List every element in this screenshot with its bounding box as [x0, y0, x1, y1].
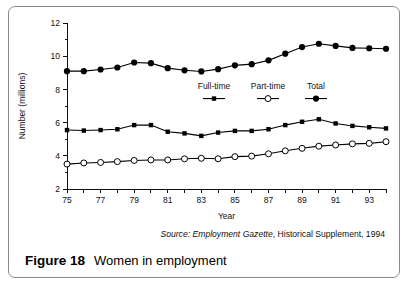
- series-marker-total: [64, 68, 70, 74]
- series-marker-total: [131, 59, 137, 65]
- series-marker-part-time: [282, 148, 288, 154]
- x-tick-label: 81: [163, 195, 173, 205]
- series-marker-full-time: [384, 126, 388, 130]
- series-marker-part-time: [165, 157, 171, 163]
- series-marker-total: [383, 46, 389, 52]
- x-tick-label: 87: [264, 195, 274, 205]
- x-tick-label: 93: [364, 195, 374, 205]
- figure-caption: Figure 18 Women in employment: [25, 253, 227, 268]
- series-line-full-time: [67, 119, 386, 136]
- series-marker-total: [198, 68, 204, 74]
- series-marker-total: [316, 41, 322, 47]
- x-tick-label: 75: [62, 195, 72, 205]
- series-marker-part-time: [198, 155, 204, 161]
- y-tick-label: 6: [55, 118, 60, 128]
- series-marker-part-time: [366, 140, 372, 146]
- series-marker-part-time: [316, 143, 322, 149]
- series-marker-part-time: [232, 154, 238, 160]
- series-marker-full-time: [182, 131, 186, 135]
- series-marker-total: [165, 65, 171, 71]
- series-marker-full-time: [82, 128, 86, 132]
- line-chart: 2468101275777981838587899193YearNumber (…: [9, 11, 399, 226]
- series-marker-part-time: [349, 141, 355, 147]
- legend-label-total: Total: [307, 81, 325, 91]
- series-marker-total: [299, 44, 305, 50]
- source-rest: , Historical Supplement, 1994: [273, 229, 385, 239]
- series-marker-full-time: [216, 130, 220, 134]
- legend-marker-total: [313, 95, 319, 101]
- x-tick-label: 79: [129, 195, 139, 205]
- series-marker-total: [265, 57, 271, 63]
- legend-marker-part-time: [265, 96, 271, 102]
- y-tick-label: 2: [55, 184, 60, 194]
- series-marker-part-time: [333, 142, 339, 148]
- series-marker-part-time: [182, 156, 188, 162]
- series-marker-part-time: [131, 157, 137, 163]
- series-marker-part-time: [215, 156, 221, 162]
- series-marker-total: [81, 68, 87, 74]
- legend-marker-full-time: [212, 96, 216, 100]
- x-tick-label: 83: [197, 195, 207, 205]
- series-marker-full-time: [266, 127, 270, 131]
- series-marker-total: [114, 64, 120, 70]
- figure-card: 2468101275777981838587899193YearNumber (…: [8, 6, 400, 278]
- legend-label-full-time: Full-time: [198, 81, 231, 91]
- series-marker-full-time: [333, 121, 337, 125]
- x-tick-label: 89: [297, 195, 307, 205]
- x-tick-label: 91: [331, 195, 341, 205]
- series-marker-full-time: [350, 124, 354, 128]
- source-prefix: Source:: [160, 229, 190, 239]
- x-tick-label: 85: [230, 195, 240, 205]
- series-marker-part-time: [114, 159, 120, 165]
- series-marker-full-time: [65, 128, 69, 132]
- series-marker-full-time: [149, 123, 153, 127]
- y-tick-label: 4: [55, 151, 60, 161]
- series-marker-total: [148, 60, 154, 66]
- x-tick-label: 77: [96, 195, 106, 205]
- series-marker-part-time: [81, 160, 87, 166]
- series-marker-part-time: [98, 159, 104, 165]
- caption-label: Figure 18: [25, 253, 85, 268]
- source-publication: Employment Gazette: [192, 229, 272, 239]
- series-marker-full-time: [166, 130, 170, 134]
- series-marker-full-time: [98, 128, 102, 132]
- series-marker-total: [232, 62, 238, 68]
- series-marker-total: [249, 61, 255, 67]
- series-marker-full-time: [115, 127, 119, 131]
- series-marker-part-time: [148, 157, 154, 163]
- y-axis-title: Number (millions): [17, 73, 27, 140]
- series-marker-full-time: [249, 129, 253, 133]
- series-marker-full-time: [283, 123, 287, 127]
- series-marker-total: [349, 45, 355, 51]
- chart-plot-area: 2468101275777981838587899193YearNumber (…: [9, 11, 399, 226]
- series-marker-full-time: [367, 125, 371, 129]
- series-marker-part-time: [249, 153, 255, 159]
- y-tick-label: 10: [51, 51, 61, 61]
- series-marker-full-time: [132, 123, 136, 127]
- caption-text: Women in employment: [94, 253, 227, 268]
- series-marker-total: [333, 43, 339, 49]
- series-marker-total: [181, 67, 187, 73]
- series-marker-total: [366, 45, 372, 51]
- y-tick-label: 12: [51, 18, 61, 28]
- source-note: Source: Employment Gazette, Historical S…: [160, 229, 385, 239]
- series-marker-total: [282, 51, 288, 57]
- series-marker-part-time: [299, 145, 305, 151]
- y-tick-label: 8: [55, 85, 60, 95]
- series-marker-full-time: [233, 129, 237, 133]
- legend-label-part-time: Part-time: [251, 81, 286, 91]
- series-marker-total: [97, 66, 103, 72]
- series-marker-full-time: [300, 120, 304, 124]
- x-axis-title: Year: [218, 211, 235, 221]
- series-marker-part-time: [265, 151, 271, 157]
- series-marker-part-time: [64, 161, 70, 167]
- series-marker-full-time: [199, 134, 203, 138]
- series-marker-total: [215, 66, 221, 72]
- series-marker-part-time: [383, 139, 389, 145]
- series-marker-full-time: [317, 117, 321, 121]
